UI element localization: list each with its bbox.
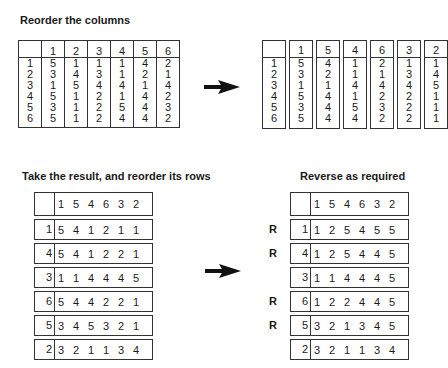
table-cell: 1 [58, 272, 73, 284]
table-cell: 5 [73, 198, 88, 210]
table-cell: 5 [133, 272, 148, 284]
table-row: 6544221 [34, 291, 153, 312]
table-cell: 1 [65, 113, 88, 128]
reverse-marker: R [269, 319, 277, 331]
table-cell: 1 [58, 198, 73, 210]
table-cell: 2 [118, 296, 133, 308]
table-cell: 3 [374, 344, 389, 356]
table-cell: 5 [42, 113, 65, 128]
row-key: 6 [291, 292, 311, 311]
table-cell: 3 [314, 344, 329, 356]
table-cell: 2 [157, 113, 180, 128]
table-cell: 2 [88, 113, 111, 128]
table-cell: 4 [88, 296, 103, 308]
table-cell: 5 [389, 296, 404, 308]
table-cell: 5 [344, 224, 359, 236]
table-cell: 2 [371, 113, 393, 124]
row-key: 2 [35, 340, 55, 359]
title-reorder-columns: Reorder the columns [20, 14, 130, 26]
table-cell: 1 [359, 344, 374, 356]
table-cell: 2 [133, 198, 148, 210]
table-row: R4125445 [290, 243, 409, 264]
table-cell: 2 [118, 320, 133, 332]
row-key: 1 [35, 220, 55, 239]
row-key [291, 193, 311, 215]
table-cell: 5 [389, 272, 404, 284]
table-cell: 5 [329, 198, 344, 210]
table-cell: 4 [374, 272, 389, 284]
table-row: R6122445 [290, 291, 409, 312]
table-cell: 5 [58, 224, 73, 236]
table-cell: 1 [133, 320, 148, 332]
column-header: 1 [42, 41, 65, 58]
column-header [19, 41, 42, 58]
column-header: 4 [111, 41, 134, 58]
table-cell: 1 [344, 320, 359, 332]
table-cell: 4 [344, 198, 359, 210]
title-reverse: Reverse as required [300, 170, 405, 182]
row-key [35, 193, 55, 215]
column-box: 3134222 [397, 40, 421, 129]
table-cell: 4 [73, 224, 88, 236]
table-cell: 1 [88, 224, 103, 236]
table-cell: 2 [103, 248, 118, 260]
column-header: 2 [425, 41, 447, 58]
table-cell: 3 [58, 344, 73, 356]
table-cell: 2 [389, 198, 404, 210]
reverse-marker: R [269, 247, 277, 259]
table-row: 5345321 [34, 315, 153, 336]
table-cell: 1 [329, 272, 344, 284]
table-cell: 3 [118, 344, 133, 356]
column-header: 1 [290, 41, 312, 58]
arrow-right-icon [204, 80, 244, 94]
table-cell: 3 [374, 198, 389, 210]
table-cell: 4 [73, 296, 88, 308]
table-cell: 1 [314, 224, 329, 236]
table-cell: 2 [398, 113, 420, 124]
reverse-marker: R [269, 295, 277, 307]
table-cell: 6 [263, 113, 285, 124]
column-header: 6 [157, 41, 180, 58]
table-cell: 4 [103, 272, 118, 284]
table-cell: 1 [425, 113, 447, 124]
table-cell: 5 [58, 248, 73, 260]
table-cell: 1 [314, 296, 329, 308]
table-cell: 1 [344, 344, 359, 356]
table-cell: 4 [134, 113, 157, 128]
reordered-columns-table: 1234561531535542144441141546214232313422… [262, 40, 448, 129]
column-box: 5421444 [316, 40, 340, 129]
column-box: 2145111 [424, 40, 448, 129]
table-cell: 3 [118, 198, 133, 210]
original-table: 1234561511142234312131544144512142531254… [18, 40, 180, 128]
table-cell: 1 [314, 248, 329, 260]
table-cell: 4 [389, 344, 404, 356]
arrow-right-icon [205, 264, 245, 278]
column-header: 5 [134, 41, 157, 58]
table-cell: 5 [374, 224, 389, 236]
table-cell: 4 [133, 344, 148, 356]
table-cell: 5 [389, 224, 404, 236]
row-key: 3 [35, 268, 55, 287]
table-row: 3114445 [290, 267, 409, 288]
table-cell: 4 [359, 272, 374, 284]
table-row: R5321345 [290, 315, 409, 336]
column-header: 4 [344, 41, 366, 58]
table-cell: 5 [389, 248, 404, 260]
header-row: 154632 [34, 192, 153, 216]
row-key: 5 [291, 316, 311, 335]
table-cell: 3 [103, 320, 118, 332]
row-key: 6 [35, 292, 55, 311]
row-key: 3 [291, 268, 311, 287]
table-cell: 1 [103, 344, 118, 356]
table-cell: 2 [103, 224, 118, 236]
table-cell: 4 [344, 272, 359, 284]
table-cell: 4 [88, 272, 103, 284]
reverse-marker: R [269, 223, 277, 235]
reordered-rows-table: 1546321541211454122131144456544221534532… [34, 192, 153, 363]
column-header [263, 41, 285, 58]
table-cell: 4 [374, 296, 389, 308]
table-cell: 4 [359, 224, 374, 236]
table-cell: 2 [329, 344, 344, 356]
row-key: 4 [35, 244, 55, 263]
table-cell: 4 [88, 198, 103, 210]
